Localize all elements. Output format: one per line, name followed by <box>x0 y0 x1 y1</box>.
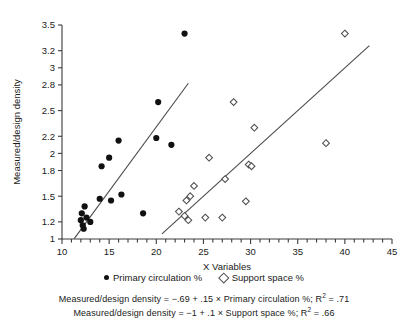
data-point-support-space <box>206 154 213 161</box>
caption-line-1: Measured/design density = −.69 + .15 × P… <box>59 292 350 304</box>
data-point-primary-circulation <box>97 196 103 202</box>
data-point-primary-circulation <box>115 137 121 143</box>
data-point-primary-circulation <box>155 99 161 105</box>
plot-area: 11.21.51.822.22.52.833.23.51015202530354… <box>0 0 408 270</box>
x-tick-label: 25 <box>198 246 209 257</box>
data-point-primary-circulation <box>99 163 105 169</box>
data-point-primary-circulation <box>108 197 114 203</box>
data-point-support-space <box>230 99 237 106</box>
filled-circle-icon <box>104 275 109 280</box>
legend-label-support-space: Support space % <box>232 272 304 283</box>
x-tick-label: 35 <box>292 246 303 257</box>
y-tick-label: 3 <box>50 62 55 73</box>
data-point-primary-circulation <box>181 30 187 36</box>
y-tick-label: 2.2 <box>42 131 55 142</box>
data-point-primary-circulation <box>153 135 159 141</box>
caption-2-text: Measured/design density = −1 + .1 × Supp… <box>73 308 307 318</box>
data-point-primary-circulation <box>81 226 87 232</box>
data-point-support-space <box>242 198 249 205</box>
figure-captions: Measured/design density = −.69 + .15 × P… <box>0 292 408 318</box>
data-point-primary-circulation <box>168 142 174 148</box>
data-point-support-space <box>202 214 209 221</box>
axes <box>58 25 392 244</box>
x-tick-label: 10 <box>57 246 68 257</box>
data-point-support-space <box>251 124 258 131</box>
data-points <box>78 30 349 232</box>
data-point-primary-circulation <box>140 210 146 216</box>
y-tick-label: 1.2 <box>42 216 55 227</box>
y-tick-label: 3.5 <box>42 19 55 30</box>
legend-item-support-space: Support space % <box>220 272 304 283</box>
data-point-support-space <box>191 183 198 190</box>
data-point-support-space <box>323 140 330 147</box>
plot-canvas: 11.21.51.822.22.52.833.23.51015202530354… <box>0 0 408 270</box>
x-tick-label: 15 <box>104 246 115 257</box>
y-tick-label: 3.2 <box>42 45 55 56</box>
data-point-primary-circulation <box>79 210 85 216</box>
y-tick-label: 1.8 <box>42 165 55 176</box>
data-point-support-space <box>222 176 229 183</box>
y-tick-label: 2.8 <box>42 79 55 90</box>
open-diamond-icon <box>219 272 230 283</box>
data-point-primary-circulation <box>82 203 88 209</box>
caption-1-suffix: = .71 <box>326 294 349 304</box>
x-tick-label: 20 <box>151 246 162 257</box>
y-tick-label: 2.5 <box>42 105 55 116</box>
data-point-primary-circulation <box>118 191 124 197</box>
regression-line <box>162 46 369 234</box>
data-point-primary-circulation <box>106 155 112 161</box>
caption-line-2: Measured/design density = −1 + .1 × Supp… <box>73 306 334 318</box>
legend-item-primary-circulation: Primary circulation % <box>104 272 202 283</box>
scatter-plot-figure: 11.21.51.822.22.52.833.23.51015202530354… <box>0 0 408 329</box>
y-tick-label: 2 <box>50 148 55 159</box>
x-axis-title: X Variables <box>203 261 251 270</box>
regression-line <box>74 83 188 238</box>
caption-1-text: Measured/design density = −.69 + .15 × P… <box>59 294 322 304</box>
data-point-support-space <box>341 30 348 37</box>
caption-2-suffix: = .66 <box>311 308 334 318</box>
x-tick-label: 30 <box>245 246 256 257</box>
y-tick-label: 1.5 <box>42 191 55 202</box>
x-tick-label: 45 <box>387 246 398 257</box>
y-axis-title: Measured/design density <box>11 79 22 185</box>
axis-labels: 11.21.51.822.22.52.833.23.51015202530354… <box>11 19 397 270</box>
x-tick-label: 40 <box>340 246 351 257</box>
data-point-primary-circulation <box>87 219 93 225</box>
chart-legend: Primary circulation % Support space % <box>0 272 408 283</box>
y-tick-label: 1 <box>50 233 55 244</box>
legend-label-primary-circulation: Primary circulation % <box>113 272 202 283</box>
data-point-support-space <box>219 214 226 221</box>
data-point-support-space <box>176 208 183 215</box>
